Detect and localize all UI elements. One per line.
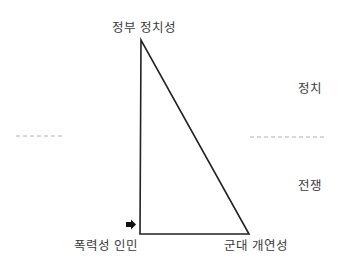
side-label-politics: 정치 bbox=[298, 83, 322, 96]
arrow-right-icon bbox=[126, 220, 136, 230]
vertex-label-bottom-left: 폭력성 인민 bbox=[74, 240, 138, 253]
trinity-triangle-diagram bbox=[0, 0, 339, 268]
side-label-war: 전쟁 bbox=[298, 180, 322, 193]
vertex-label-bottom-right: 군대 개연성 bbox=[224, 240, 288, 253]
triangle bbox=[140, 40, 249, 234]
vertex-label-top: 정부 정치성 bbox=[112, 22, 176, 35]
